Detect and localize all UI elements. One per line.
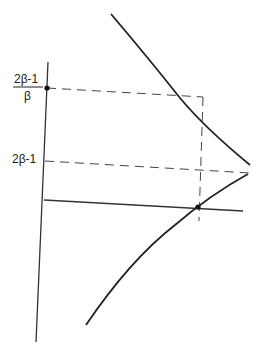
dashed-line-2beta-minus-1-level bbox=[45, 161, 250, 173]
horizontal-axis bbox=[44, 200, 243, 211]
dashed-line-fraction-level bbox=[47, 88, 203, 97]
intersection-point bbox=[195, 204, 200, 209]
axis-point bbox=[44, 85, 49, 90]
label-fraction-numerator: 2β-1 bbox=[14, 72, 39, 86]
label-fraction-denominator: β bbox=[24, 89, 31, 103]
diagram-canvas: 2β-1 β 2β-1 bbox=[0, 0, 261, 360]
label-2beta-minus-1: 2β-1 bbox=[12, 152, 37, 166]
vertical-axis bbox=[36, 62, 48, 342]
lower-hyperbola-branch bbox=[86, 174, 248, 325]
upper-hyperbola-branch bbox=[111, 14, 250, 165]
